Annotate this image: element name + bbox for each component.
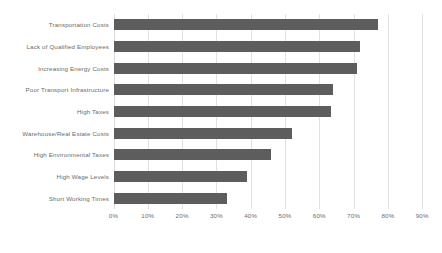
category-label-row: High Taxes bbox=[0, 101, 109, 123]
category-label-row: High Wage Levels bbox=[0, 166, 109, 188]
bar-row bbox=[114, 122, 423, 144]
category-label-row: Lack of Qualified Employees bbox=[0, 36, 109, 58]
gridline-90 bbox=[422, 14, 423, 209]
bar bbox=[114, 171, 248, 182]
x-tick-label: 80% bbox=[381, 212, 394, 219]
bar-row bbox=[114, 14, 423, 36]
category-label: High Wage Levels bbox=[57, 173, 109, 180]
x-tick-label: 30% bbox=[210, 212, 223, 219]
bars-layer bbox=[114, 14, 423, 209]
category-label: Lack of Qualified Employees bbox=[27, 43, 109, 50]
bar bbox=[114, 41, 361, 52]
plot-area bbox=[114, 14, 423, 209]
bar bbox=[114, 19, 378, 30]
bar bbox=[114, 128, 292, 139]
bar-row bbox=[114, 57, 423, 79]
category-label: High Environmental Taxes bbox=[34, 151, 109, 158]
bar bbox=[114, 63, 358, 74]
bar bbox=[114, 149, 272, 160]
bar-chart: Transportation CostsLack of Qualified Em… bbox=[0, 0, 442, 253]
bar bbox=[114, 84, 334, 95]
category-label: Short Working Times bbox=[49, 195, 109, 202]
category-label-row: High Environmental Taxes bbox=[0, 144, 109, 166]
category-label: Warehouse/Real Estate Costs bbox=[22, 130, 109, 137]
x-tick-label: 60% bbox=[313, 212, 326, 219]
x-tick-label: 20% bbox=[176, 212, 189, 219]
category-label: High Taxes bbox=[77, 108, 109, 115]
x-tick-label: 40% bbox=[244, 212, 257, 219]
x-tick-label: 10% bbox=[141, 212, 154, 219]
category-axis-labels: Transportation CostsLack of Qualified Em… bbox=[0, 14, 109, 209]
bar-row bbox=[114, 101, 423, 123]
x-tick-label: 0% bbox=[109, 212, 118, 219]
bar bbox=[114, 106, 332, 117]
x-tick-label: 50% bbox=[279, 212, 292, 219]
category-label-row: Warehouse/Real Estate Costs bbox=[0, 122, 109, 144]
bar-row bbox=[114, 144, 423, 166]
category-label: Increasing Energy Costs bbox=[38, 65, 109, 72]
category-label-row: Short Working Times bbox=[0, 187, 109, 209]
x-tick-label: 70% bbox=[347, 212, 360, 219]
x-axis-ticks: 0%10%20%30%40%50%60%70%80%90% bbox=[114, 212, 423, 228]
category-label: Transportation Costs bbox=[49, 21, 109, 28]
x-tick-label: 90% bbox=[416, 212, 429, 219]
bar-row bbox=[114, 166, 423, 188]
category-label-row: Increasing Energy Costs bbox=[0, 57, 109, 79]
category-label: Poor Transport Infrastructure bbox=[26, 86, 109, 93]
bar bbox=[114, 193, 227, 204]
bar-row bbox=[114, 36, 423, 58]
category-label-row: Transportation Costs bbox=[0, 14, 109, 36]
category-label-row: Poor Transport Infrastructure bbox=[0, 79, 109, 101]
bar-row bbox=[114, 187, 423, 209]
bar-row bbox=[114, 79, 423, 101]
